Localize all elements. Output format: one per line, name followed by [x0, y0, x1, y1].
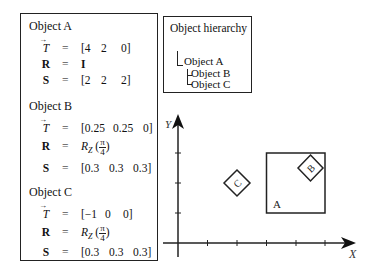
object-b-shape: B [298, 155, 323, 181]
object-c-shape: C [224, 170, 250, 196]
x-axis [163, 237, 356, 249]
coordinate-plot: X Y A B C [0, 0, 371, 273]
y-axis [172, 114, 184, 257]
y-axis-label: Y [165, 118, 173, 130]
x-axis-label: X [348, 247, 357, 261]
object-a-label: A [273, 198, 281, 210]
